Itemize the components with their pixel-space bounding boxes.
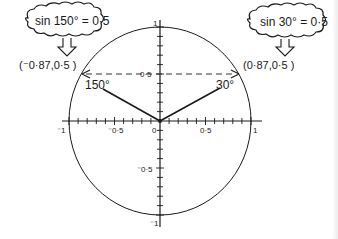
page-edge-shadow bbox=[332, 0, 338, 239]
callout-text-150: sin 150° = 0·5 bbox=[35, 14, 110, 28]
y-label-1: 1 bbox=[153, 19, 158, 28]
x-label-1: 1 bbox=[253, 126, 258, 135]
x-label-neg1: ⁻1 bbox=[57, 126, 66, 135]
point-label-150: (⁻0·87,0·5 ) bbox=[19, 59, 76, 71]
y-label-neg1: ⁻1 bbox=[150, 219, 159, 228]
callout-sin150: sin 150° = 0·5 bbox=[26, 2, 110, 56]
radius-30 bbox=[160, 88, 220, 121]
callout-arrow-icon bbox=[276, 39, 294, 56]
x-label-0.5: 0·5 bbox=[200, 126, 212, 135]
callout-sin30: sin 30° = 0·5 bbox=[248, 3, 329, 56]
y-label-0.5: 0·5 bbox=[140, 70, 152, 79]
callout-text-30: sin 30° = 0·5 bbox=[260, 15, 328, 29]
x-label-origin: 0 bbox=[152, 126, 157, 135]
angle-label-30: 30° bbox=[216, 78, 234, 92]
angle-label-150: 150° bbox=[85, 78, 110, 92]
radius-150 bbox=[103, 89, 160, 121]
callout-arrow-icon bbox=[58, 38, 76, 56]
origin-dot bbox=[158, 119, 162, 123]
arrow-right-icon bbox=[231, 70, 239, 78]
y-label-neg0.5: ⁻0·5 bbox=[137, 165, 153, 174]
unit-circle-diagram: 150° 30° ⁻1 ⁻0·5 0 0·5 1 1 0·5 ⁻0·5 ⁻1 (… bbox=[0, 0, 338, 239]
point-label-30: (0·87,0·5 ) bbox=[243, 59, 294, 71]
x-label-neg0.5: ⁻0·5 bbox=[108, 126, 124, 135]
